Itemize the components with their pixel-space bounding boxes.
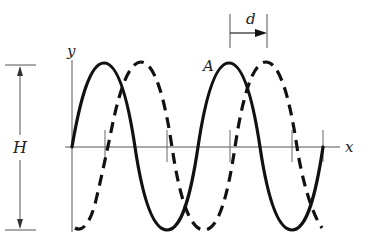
- shift-dimension: d: [230, 10, 267, 48]
- arrow-down-icon: [17, 219, 23, 229]
- arrow-up-icon: [17, 66, 23, 76]
- height-label: H: [12, 138, 28, 157]
- wave-diagram: H y x d A: [0, 0, 376, 250]
- x-axis-label: x: [345, 138, 354, 156]
- y-axis-label: y: [66, 42, 76, 60]
- arrow-right-icon: [255, 29, 267, 37]
- peak-label: A: [201, 57, 214, 75]
- height-dimension: H: [5, 65, 36, 230]
- shift-label: d: [246, 10, 256, 28]
